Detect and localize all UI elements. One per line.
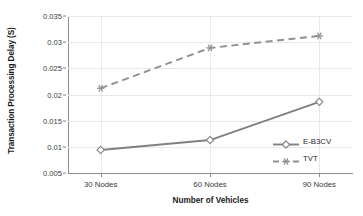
legend-swatch-asterisk-icon bbox=[272, 153, 300, 164]
y-tick-mark bbox=[63, 173, 66, 174]
legend-item-tvt[interactable]: TVT bbox=[272, 150, 350, 167]
legend-label: TVT bbox=[300, 154, 318, 163]
y-tick-label: 0.02 bbox=[47, 90, 62, 99]
diamond-marker bbox=[206, 136, 213, 143]
y-axis-title-text: Transaction Processing Delay (S) bbox=[7, 27, 16, 153]
y-tick-mark bbox=[63, 146, 66, 147]
y-axis-title: Transaction Processing Delay (S) bbox=[0, 0, 22, 180]
y-tick-mark bbox=[63, 42, 66, 43]
x-tick-mark bbox=[319, 173, 320, 177]
series-line-tvt bbox=[101, 36, 320, 88]
x-tick-mark bbox=[210, 173, 211, 177]
legend-swatch-diamond-icon bbox=[272, 136, 300, 147]
legend-item-e-b3cv[interactable]: E-B3CV bbox=[272, 133, 350, 150]
y-tick-label: 0.005 bbox=[43, 169, 62, 178]
y-tick-label: 0.015 bbox=[43, 116, 62, 125]
y-tick-mark bbox=[63, 120, 66, 121]
asterisk-marker bbox=[316, 33, 324, 40]
y-tick-label: 0.01 bbox=[47, 142, 62, 151]
x-tick-label: 60 Nodes bbox=[193, 180, 226, 189]
diamond-marker bbox=[97, 146, 104, 153]
line-chart: Transaction Processing Delay (S) 0.0350.… bbox=[0, 0, 363, 216]
diamond-marker bbox=[282, 141, 289, 148]
y-tick-label: 0.025 bbox=[43, 64, 62, 73]
legend-label: E-B3CV bbox=[300, 137, 331, 146]
asterisk-marker bbox=[282, 158, 290, 165]
y-tick-label: 0.035 bbox=[43, 12, 62, 21]
y-tick-mark bbox=[63, 68, 66, 69]
x-axis-title: Number of Vehicles bbox=[68, 196, 353, 205]
chart-legend: E-B3CVTVT bbox=[272, 133, 350, 167]
diamond-marker bbox=[316, 98, 323, 105]
y-tick-mark bbox=[63, 94, 66, 95]
x-tick-label: 30 Nodes bbox=[84, 180, 117, 189]
x-tick-mark bbox=[101, 173, 102, 177]
asterisk-marker bbox=[97, 85, 105, 92]
x-tick-label: 90 Nodes bbox=[303, 180, 336, 189]
y-tick-label: 0.03 bbox=[47, 38, 62, 47]
asterisk-marker bbox=[206, 45, 214, 52]
y-tick-mark bbox=[63, 16, 66, 17]
y-axis-tick-labels: 0.0350.030.0250.020.0150.010.005 bbox=[22, 16, 66, 173]
